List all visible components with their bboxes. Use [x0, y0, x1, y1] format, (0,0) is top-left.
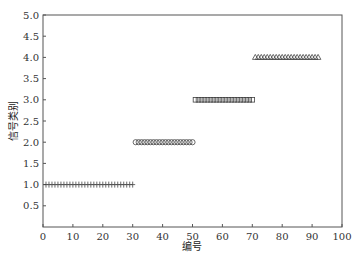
x-tick-label: 30 [126, 231, 139, 242]
square-marker [208, 98, 213, 103]
y-tick-label: 3.5 [23, 73, 39, 84]
y-tick-label: 0.5 [23, 200, 39, 211]
y-tick-label: 1.0 [23, 179, 39, 190]
data-points [43, 54, 320, 187]
axes-frame [43, 15, 342, 227]
square-marker [241, 98, 246, 103]
plus-marker [130, 182, 135, 188]
y-tick-label: 1.5 [23, 158, 39, 169]
square-marker [244, 98, 249, 103]
square-marker [193, 98, 198, 103]
square-marker [250, 98, 255, 103]
x-tick-label: 40 [156, 231, 169, 242]
square-marker [223, 98, 228, 103]
x-tick-label: 80 [276, 231, 289, 242]
series-circle [133, 140, 195, 145]
square-marker [226, 98, 231, 103]
x-tick-label: 20 [96, 231, 109, 242]
series-plus [43, 182, 135, 188]
square-marker [247, 98, 252, 103]
square-marker [229, 98, 234, 103]
square-marker [217, 98, 222, 103]
square-marker [220, 98, 225, 103]
square-marker [238, 98, 243, 103]
series-triangle [252, 54, 320, 59]
x-tick-label: 100 [332, 231, 351, 242]
plot-area-border [43, 15, 342, 227]
y-axis-label: 信号类别 [7, 101, 19, 141]
y-tick-label: 3.0 [23, 94, 39, 105]
square-marker [232, 98, 237, 103]
y-tick-label: 5.0 [23, 10, 39, 21]
y-tick-label: 4.5 [23, 31, 39, 42]
square-marker [199, 98, 204, 103]
x-tick-label: 10 [67, 231, 80, 242]
y-tick-label: 2.0 [23, 137, 39, 148]
square-marker [214, 98, 219, 103]
x-tick-label: 70 [246, 231, 259, 242]
y-tick-label: 4.0 [23, 52, 39, 63]
square-marker [211, 98, 216, 103]
scatter-chart: 0.51.01.52.02.53.03.54.04.55.0 010203040… [0, 0, 360, 269]
x-tick-label: 90 [306, 231, 319, 242]
x-axis-label: 编号 [182, 240, 202, 252]
y-tick-label: 2.5 [23, 116, 39, 127]
square-marker [202, 98, 207, 103]
x-tick-label: 0 [40, 231, 46, 242]
square-marker [196, 98, 201, 103]
x-tick-label: 60 [216, 231, 229, 242]
square-marker [235, 98, 240, 103]
series-square [193, 98, 254, 103]
square-marker [205, 98, 210, 103]
